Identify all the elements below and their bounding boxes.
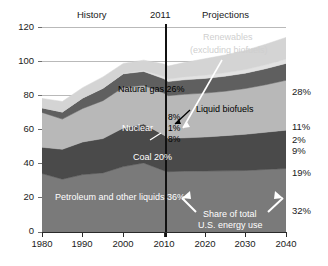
x-tickmark-2040 [286, 233, 287, 237]
energy-consumption-chart: History 2011 Projections 120 100 80 60 4… [0, 0, 328, 266]
renewables-label-line1: Renewables [203, 32, 253, 42]
right-share-biofuels: 2% [292, 134, 306, 145]
projections-label: Projections [202, 9, 249, 20]
year-divider-label: 2011 [150, 9, 170, 20]
year-2011-divider [165, 24, 167, 237]
center-biofuels-pct: 1% [168, 124, 180, 134]
center-nuclear-pct: 8% [168, 135, 180, 145]
center-renewables-pct: 8% [168, 113, 180, 123]
liquid-biofuels-label: Liquid biofuels [196, 104, 254, 114]
y-tick-120: 120 [4, 21, 34, 32]
y-tick-60: 60 [4, 123, 34, 134]
y-tick-80: 80 [4, 89, 34, 100]
right-share-natural-gas: 11% [292, 121, 310, 132]
x-tickmark-2000 [123, 233, 124, 237]
x-tick-2010: 2010 [144, 238, 184, 249]
x-tick-2040: 2040 [266, 238, 306, 249]
x-tick-2000: 2000 [103, 238, 143, 249]
nuclear-label: Nuclear [122, 123, 153, 133]
x-tick-1990: 1990 [62, 238, 102, 249]
x-tickmark-2030 [245, 233, 246, 237]
natural-gas-label: Natural gas 26% [118, 84, 185, 94]
y-tick-20: 20 [4, 191, 34, 202]
x-tickmark-2010 [164, 233, 165, 237]
share-of-total-line1: Share of total [203, 209, 257, 219]
x-tick-2020: 2020 [185, 238, 225, 249]
x-tickmark-1990 [82, 233, 83, 237]
history-label: History [77, 9, 107, 20]
right-share-coal: 19% [292, 167, 311, 178]
right-share-petroleum: 32% [292, 205, 311, 216]
x-tickmark-1980 [42, 233, 43, 237]
coal-label: Coal 20% [133, 152, 172, 162]
x-tick-1980: 1980 [22, 238, 62, 249]
right-share-renewables: 28% [292, 86, 311, 97]
right-share-nuclear: 9% [292, 145, 306, 156]
y-tick-0: 0 [4, 225, 34, 236]
petroleum-label: Petroleum and other liquids 36% [55, 192, 185, 202]
x-tick-2030: 2030 [225, 238, 265, 249]
renewables-label-line2: (excluding biofuels) [190, 45, 268, 55]
y-tick-40: 40 [4, 157, 34, 168]
share-of-total-line2: U.S. energy use [198, 220, 263, 230]
x-tickmark-2020 [205, 233, 206, 237]
y-tick-100: 100 [4, 55, 34, 66]
